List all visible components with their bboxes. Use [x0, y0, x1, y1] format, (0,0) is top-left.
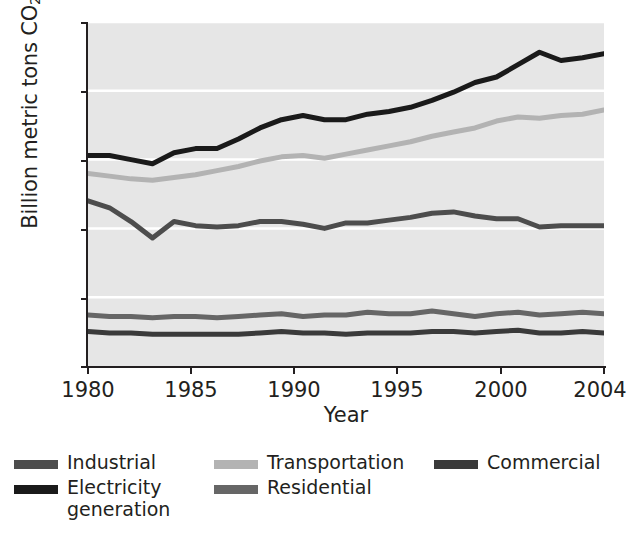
series-line-commercial: [88, 330, 604, 334]
legend-label-electricity-generation: Electricity generation: [67, 477, 214, 520]
x-tick-label-2004: 2004: [555, 378, 631, 402]
x-axis-line: [86, 366, 606, 368]
legend-swatch-icon-residential: [214, 485, 258, 494]
x-tick-label-1980: 1980: [43, 378, 133, 402]
series-lines: [88, 52, 604, 334]
legend-swatch-icon-commercial: [434, 460, 478, 469]
legend-swatch-icon-electricity-generation: [14, 485, 58, 494]
y-axis-title-subscript: 2: [27, 0, 43, 5]
legend-item-industrial[interactable]: Industrial: [14, 452, 214, 473]
legend-swatch-icon-industrial: [14, 460, 58, 469]
x-tick-mark-1995: [396, 366, 398, 374]
y-axis-line: [86, 22, 88, 368]
y-axis-title-text: Billion metric tons CO: [18, 5, 42, 229]
series-line-electricity-generation: [88, 52, 604, 163]
x-tick-mark-2004: [603, 366, 605, 374]
x-tick-label-2000: 2000: [456, 378, 546, 402]
series-line-industrial: [88, 201, 604, 238]
x-tick-mark-1985: [190, 366, 192, 374]
x-tick-mark-1990: [293, 366, 295, 374]
x-tick-mark-1980: [87, 366, 89, 374]
plot-svg: [88, 22, 604, 366]
x-tick-label-1995: 1995: [352, 378, 442, 402]
x-tick-label-1990: 1990: [249, 378, 339, 402]
legend-label-residential: Residential: [267, 477, 372, 498]
legend-label-commercial: Commercial: [487, 452, 601, 473]
x-tick-label-1985: 1985: [146, 378, 236, 402]
plot-area: [88, 22, 604, 366]
legend: Industrial Transportation Commercial Ele…: [14, 452, 624, 520]
legend-label-industrial: Industrial: [67, 452, 156, 473]
legend-item-commercial[interactable]: Commercial: [434, 452, 624, 473]
legend-swatch-icon-transportation: [214, 460, 258, 469]
legend-label-transportation: Transportation: [267, 452, 404, 473]
co2-emissions-line-chart: Billion metric tons CO2 2.5 2.0 1.5 1.0 …: [0, 0, 631, 543]
legend-item-electricity-generation[interactable]: Electricity generation: [14, 477, 214, 520]
y-axis-title: Billion metric tons CO2: [18, 0, 43, 293]
legend-item-transportation[interactable]: Transportation: [214, 452, 434, 473]
x-axis-title: Year: [88, 403, 604, 427]
series-line-residential: [88, 311, 604, 318]
legend-item-residential[interactable]: Residential: [214, 477, 434, 520]
x-tick-mark-2000: [500, 366, 502, 374]
